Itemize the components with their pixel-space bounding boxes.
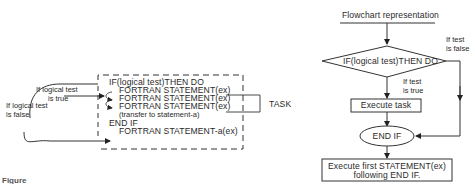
execute-task-label: Execute task — [351, 101, 421, 110]
flowchart-title: Flowchart representation — [342, 11, 439, 20]
false-path — [24, 132, 110, 142]
final-statement-label: Execute first STATEMENT(ex) following EN… — [322, 162, 452, 179]
false-label: If logical test is false — [6, 102, 48, 119]
code-line-statement-a: FORTRAN STATEMENT-a(ex) — [119, 127, 238, 136]
figure-caption: Figure — [2, 177, 26, 184]
false-branch-label: If test is false — [446, 36, 469, 53]
task-label: TASK — [269, 100, 291, 109]
decision-label: IF(logical test)THEN DO — [343, 57, 438, 66]
end-if-label: END IF — [360, 132, 414, 141]
true-branch-label: If test is true — [403, 78, 423, 95]
